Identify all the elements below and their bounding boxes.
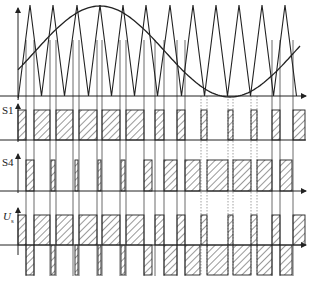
us-label: Us xyxy=(3,210,14,225)
us-label-sub: s xyxy=(11,217,14,225)
waveform-canvas xyxy=(0,0,310,284)
s4-label: S4 xyxy=(2,156,14,168)
us-label-main: U xyxy=(3,210,11,222)
s4-pulse-train xyxy=(26,160,292,191)
s1-pulse-train xyxy=(18,110,305,140)
triangle-carrier-wave xyxy=(18,5,297,100)
s1-label: S1 xyxy=(2,104,14,116)
spwm-diagram: S1 S4 Us xyxy=(0,0,310,284)
